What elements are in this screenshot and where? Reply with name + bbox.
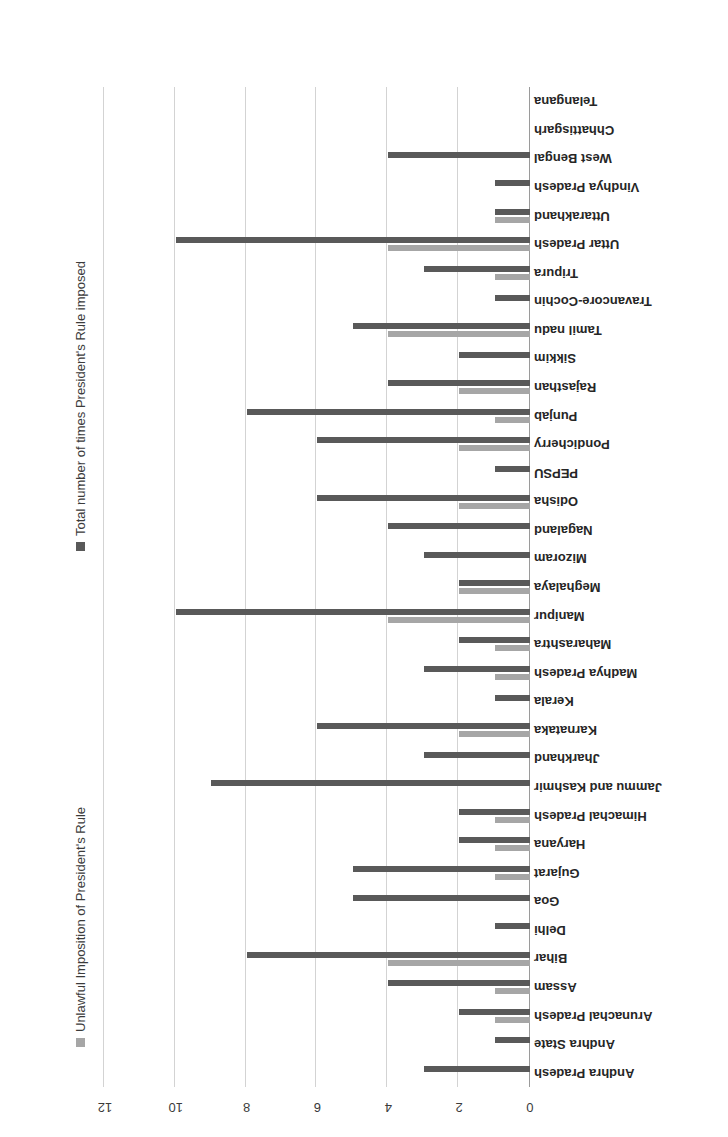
bar-total xyxy=(459,837,530,843)
bar-row: Andhra Pradesh xyxy=(105,1058,700,1087)
row-bars xyxy=(105,173,530,202)
legend-label-total: Total number of times President's Rule i… xyxy=(73,261,88,536)
row-bars xyxy=(105,458,530,487)
category-label: Telangana xyxy=(534,94,597,109)
bar-total xyxy=(176,237,530,243)
value-axis-tick: 10 xyxy=(169,1100,183,1115)
row-bars xyxy=(105,487,530,516)
bar-unlawful xyxy=(459,503,530,509)
bar-row: Rajasthan xyxy=(105,373,700,402)
bar-total xyxy=(318,495,531,501)
row-bars xyxy=(105,1058,530,1087)
bar-total xyxy=(459,1009,530,1015)
category-label: Himachal Pradesh xyxy=(534,808,647,823)
value-axis-tick: 2 xyxy=(456,1100,463,1115)
category-label: PEPSU xyxy=(534,465,578,480)
category-label: Odisha xyxy=(534,494,578,509)
bar-unlawful xyxy=(459,588,530,594)
category-label: Maharashtra xyxy=(534,637,611,652)
bar-row: PEPSU xyxy=(105,458,700,487)
category-label: Delhi xyxy=(534,922,566,937)
bar-total xyxy=(424,752,530,758)
row-bars xyxy=(105,1001,530,1030)
bar-unlawful xyxy=(495,845,530,851)
value-axis-tick: 8 xyxy=(243,1100,250,1115)
bar-row: Jammu and Kashmir xyxy=(105,773,700,802)
category-label: Jammu and Kashmir xyxy=(534,780,662,795)
bar-total xyxy=(424,266,530,272)
legend-item-total: Total number of times President's Rule i… xyxy=(73,261,88,551)
category-label: Punjab xyxy=(534,408,577,423)
bar-unlawful xyxy=(388,245,530,251)
bar-total xyxy=(459,809,530,815)
bar-row: Tamil nadu xyxy=(105,316,700,345)
bar-row: Andhra State xyxy=(105,1030,700,1059)
category-label: Karnataka xyxy=(534,722,597,737)
bar-unlawful xyxy=(495,645,530,651)
category-label: Gujarat xyxy=(534,865,580,880)
row-bars xyxy=(105,316,530,345)
row-bars xyxy=(105,858,530,887)
category-label: Tripura xyxy=(534,265,578,280)
bar-row: Uttar Pradesh xyxy=(105,230,700,259)
row-bars xyxy=(105,116,530,145)
bar-row: West Bengal xyxy=(105,144,700,173)
category-label: Vindhya Pradesh xyxy=(534,180,639,195)
row-bars xyxy=(105,830,530,859)
bar-row: Madhya Pradesh xyxy=(105,658,700,687)
bar-row: Punjab xyxy=(105,401,700,430)
row-bars xyxy=(105,744,530,773)
row-bars xyxy=(105,601,530,630)
bar-total xyxy=(318,437,531,443)
legend-swatch-total-icon xyxy=(76,542,85,551)
row-bars xyxy=(105,944,530,973)
chart-legend: Unlawful Imposition of President's Rule … xyxy=(28,31,88,1091)
bar-total xyxy=(318,723,531,729)
category-label: Mizoram xyxy=(534,551,587,566)
bar-unlawful xyxy=(495,988,530,994)
bar-unlawful xyxy=(495,1017,530,1023)
row-bars xyxy=(105,87,530,116)
bar-row: Arunachal Pradesh xyxy=(105,1001,700,1030)
bar-unlawful xyxy=(388,617,530,623)
bar-row: Tripura xyxy=(105,258,700,287)
category-label: Tamil nadu xyxy=(534,322,602,337)
bar-total xyxy=(388,380,530,386)
bar-row: Pondicherry xyxy=(105,430,700,459)
bar-unlawful xyxy=(495,274,530,280)
bar-total xyxy=(495,180,530,186)
legend-item-unlawful: Unlawful Imposition of President's Rule xyxy=(73,807,88,1047)
row-bars xyxy=(105,887,530,916)
bar-total xyxy=(495,695,530,701)
bar-row: Haryana xyxy=(105,830,700,859)
bar-row: Vindhya Pradesh xyxy=(105,173,700,202)
category-label: Jharkhand xyxy=(534,751,600,766)
bar-row: Odisha xyxy=(105,487,700,516)
gridline xyxy=(103,87,104,1087)
bar-row: Delhi xyxy=(105,916,700,945)
bar-total xyxy=(459,352,530,358)
category-label: Nagaland xyxy=(534,522,593,537)
bar-row: Goa xyxy=(105,887,700,916)
category-label: Pondicherry xyxy=(534,437,610,452)
bar-row: Karnataka xyxy=(105,716,700,745)
row-bars xyxy=(105,544,530,573)
row-bars xyxy=(105,344,530,373)
bar-unlawful xyxy=(495,874,530,880)
row-bars xyxy=(105,801,530,830)
row-bars xyxy=(105,258,530,287)
bar-total xyxy=(495,923,530,929)
bar-unlawful xyxy=(459,731,530,737)
bar-unlawful xyxy=(388,960,530,966)
category-label: Madhya Pradesh xyxy=(534,665,637,680)
category-label: Kerala xyxy=(534,694,574,709)
value-axis-tick: 12 xyxy=(98,1100,112,1115)
bar-row: Assam xyxy=(105,973,700,1002)
bar-rows: Andhra PradeshAndhra StateArunachal Prad… xyxy=(105,87,700,1087)
bar-unlawful xyxy=(388,331,530,337)
bar-row: Manipur xyxy=(105,601,700,630)
bar-unlawful xyxy=(495,817,530,823)
row-bars xyxy=(105,573,530,602)
bar-total xyxy=(388,152,530,158)
category-label: Meghalaya xyxy=(534,580,600,595)
